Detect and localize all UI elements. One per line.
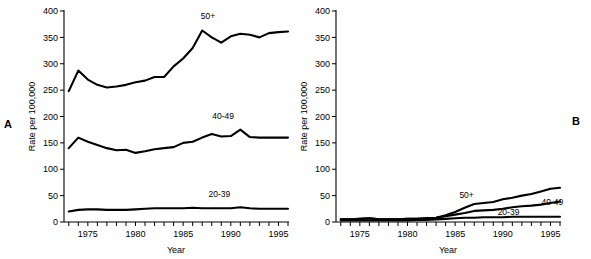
x-tick-label: 1985 bbox=[173, 229, 193, 239]
y-tick-label: 150 bbox=[43, 138, 58, 148]
y-tick-label: 0 bbox=[325, 217, 330, 227]
x-axis-title: Year bbox=[167, 245, 185, 255]
series-line-50+ bbox=[69, 31, 288, 92]
x-tick-label: 1990 bbox=[493, 229, 513, 239]
x-axis-title: Year bbox=[439, 245, 457, 255]
x-tick-label: 1980 bbox=[125, 229, 145, 239]
y-tick-label: 200 bbox=[315, 112, 330, 122]
x-tick-label: 1980 bbox=[397, 229, 417, 239]
y-tick-label: 300 bbox=[315, 59, 330, 69]
x-tick-label: 1995 bbox=[540, 229, 560, 239]
series-line-20-39 bbox=[69, 207, 288, 211]
series-label-20-39: 20-39 bbox=[208, 189, 230, 199]
y-tick-label: 400 bbox=[315, 6, 330, 16]
y-tick-label: 50 bbox=[48, 191, 58, 201]
series-label-50+: 50+ bbox=[201, 11, 215, 21]
x-tick-label: 1975 bbox=[350, 229, 370, 239]
y-tick-label: 250 bbox=[315, 85, 330, 95]
series-label-20-39: 20-39 bbox=[498, 207, 520, 217]
x-tick-label: 1975 bbox=[78, 229, 98, 239]
x-tick-label: 1985 bbox=[445, 229, 465, 239]
panel-b-label: B bbox=[572, 115, 580, 127]
y-tick-label: 100 bbox=[43, 164, 58, 174]
y-tick-label: 250 bbox=[43, 85, 58, 95]
series-line-40-49 bbox=[69, 130, 288, 153]
figure-container: A B 050100150200250300350400197519801985… bbox=[0, 0, 591, 259]
y-tick-label: 150 bbox=[315, 138, 330, 148]
y-tick-label: 350 bbox=[43, 33, 58, 43]
y-axis-title: Rate per 100,000 bbox=[27, 82, 37, 152]
y-tick-label: 350 bbox=[315, 33, 330, 43]
y-tick-label: 200 bbox=[43, 112, 58, 122]
y-tick-label: 300 bbox=[43, 59, 58, 69]
panel-a-label: A bbox=[4, 118, 12, 130]
y-tick-label: 0 bbox=[53, 217, 58, 227]
y-tick-label: 400 bbox=[43, 6, 58, 16]
series-label-50+: 50+ bbox=[459, 190, 473, 200]
y-tick-label: 50 bbox=[320, 191, 330, 201]
panel-a-chart: 0501001502002503003504001975198019851990… bbox=[27, 6, 289, 255]
charts-svg: 0501001502002503003504001975198019851990… bbox=[0, 0, 591, 259]
y-tick-label: 100 bbox=[315, 164, 330, 174]
x-tick-label: 1990 bbox=[221, 229, 241, 239]
y-axis-title: Rate per 100,000 bbox=[299, 82, 309, 152]
series-label-40-49: 40-49 bbox=[541, 197, 563, 207]
series-label-40-49: 40-49 bbox=[212, 111, 234, 121]
x-tick-label: 1995 bbox=[268, 229, 288, 239]
panel-b-chart: 0501001502002503003504001975198019851990… bbox=[299, 6, 564, 255]
